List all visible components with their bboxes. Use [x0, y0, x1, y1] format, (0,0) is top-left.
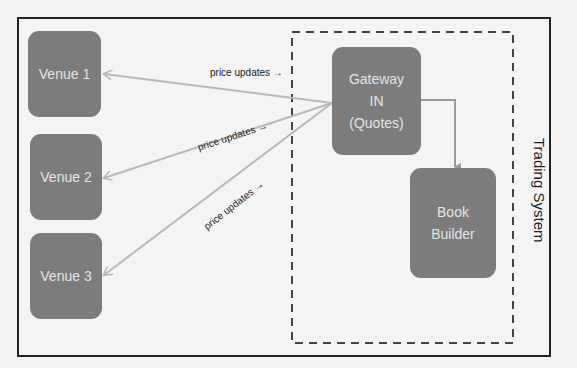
book-builder-label-2: Builder [431, 223, 475, 245]
edge-venue3 [104, 103, 332, 275]
edge-gateway-bookbuilder [421, 100, 455, 167]
venue-1-node[interactable]: Venue 1 [28, 31, 101, 117]
venue-3-label: Venue 3 [40, 265, 91, 287]
book-builder-label-1: Book [437, 201, 469, 223]
book-builder-node[interactable]: Book Builder [410, 168, 496, 278]
edge-venue1 [104, 74, 332, 103]
venue-3-node[interactable]: Venue 3 [30, 233, 102, 319]
edge-label-1: price updates → [210, 67, 283, 78]
venue-2-label: Venue 2 [40, 166, 91, 188]
gateway-label-1: Gateway [349, 68, 404, 90]
venue-2-node[interactable]: Venue 2 [30, 134, 102, 220]
trading-system-label: Trading System [531, 138, 548, 242]
gateway-label-3: (Quotes) [349, 112, 403, 134]
gateway-node[interactable]: Gateway IN (Quotes) [332, 47, 421, 155]
venue-1-label: Venue 1 [39, 63, 90, 85]
gateway-label-2: IN [370, 90, 384, 112]
